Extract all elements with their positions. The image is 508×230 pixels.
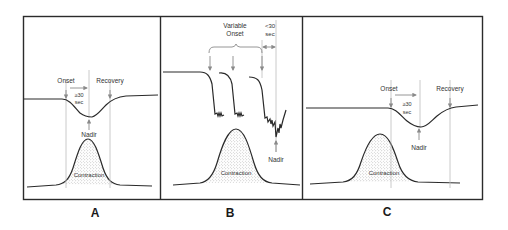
panel-c: Onset Recovery ≥30 sec Nadir Contraction… (306, 80, 478, 219)
panel-b: Variable Onset <30 sec Nadir Contraction… (163, 20, 300, 220)
panel-a: Onset Recovery ≥30 sec Nadir Contraction… (24, 70, 158, 220)
fhr-baseline-curve (306, 105, 478, 127)
variable-onset-bracket (209, 44, 262, 53)
onset-label: Onset (57, 77, 75, 84)
contraction-label: Contraction (369, 170, 400, 176)
duration-label-line2: sec (75, 99, 84, 105)
onset-label: Onset (380, 85, 398, 92)
fhr-baseline-curve (24, 95, 158, 117)
duration-label-line1: ≥30 (402, 101, 411, 107)
fhr-segment-1 (163, 72, 224, 116)
nadir-label: Nadir (268, 156, 284, 163)
panel-label-b: B (226, 206, 235, 220)
fetal-heart-rate-deceleration-diagram: Onset Recovery ≥30 sec Nadir Contraction… (0, 0, 508, 230)
fhr-segment-3 (249, 77, 286, 137)
nadir-label: Nadir (81, 131, 97, 138)
duration-label-line1: <30 (265, 23, 276, 29)
variable-onset-label-line1: Variable (223, 22, 247, 29)
recovery-label: Recovery (436, 85, 464, 93)
recovery-label: Recovery (96, 77, 124, 85)
fhr-segment-2 (219, 73, 244, 116)
panel-label-c: C (383, 205, 392, 219)
panel-label-a: A (91, 206, 100, 220)
contraction-label: Contraction (74, 172, 105, 178)
duration-label-line2: sec (403, 109, 412, 115)
duration-label-line2: sec (265, 31, 274, 37)
duration-label-line1: ≥30 (74, 92, 83, 98)
nadir-label: Nadir (411, 144, 427, 151)
contraction-label: Contraction (221, 170, 252, 176)
variable-onset-label-line2: Onset (226, 30, 244, 37)
